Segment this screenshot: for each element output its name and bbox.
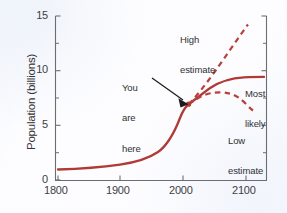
low-estimate-label-line1: Low (228, 136, 263, 146)
high-estimate-label-line1: High (180, 35, 215, 45)
x-axis-major-ticks (58, 176, 246, 181)
x-tick-label-1900: 1900 (106, 185, 130, 197)
you-are-here-label-line2: are (122, 113, 141, 123)
low-estimate-label: Low estimate (228, 115, 263, 197)
you-are-here-label-line3: here (122, 144, 141, 154)
y-tick-label-5: 5 (28, 119, 48, 131)
population-projection-chart: Population (billions) 15 10 5 0 1800 190… (0, 0, 287, 213)
high-estimate-label-line2: estimate (180, 65, 215, 75)
y-tick-label-15: 15 (28, 10, 48, 22)
y-axis-label: Population (billions) (25, 27, 37, 177)
high-estimate-label: High estimate (180, 14, 215, 96)
you-are-here-label-line1: You (122, 83, 141, 93)
most-likely-label-line1: Most (245, 89, 266, 99)
x-tick-label-1800: 1800 (44, 185, 68, 197)
x-tick-label-2000: 2000 (169, 185, 193, 197)
low-estimate-label-line2: estimate (228, 166, 263, 176)
y-tick-label-10: 10 (28, 64, 48, 76)
you-are-here-label: You are here (122, 62, 141, 175)
